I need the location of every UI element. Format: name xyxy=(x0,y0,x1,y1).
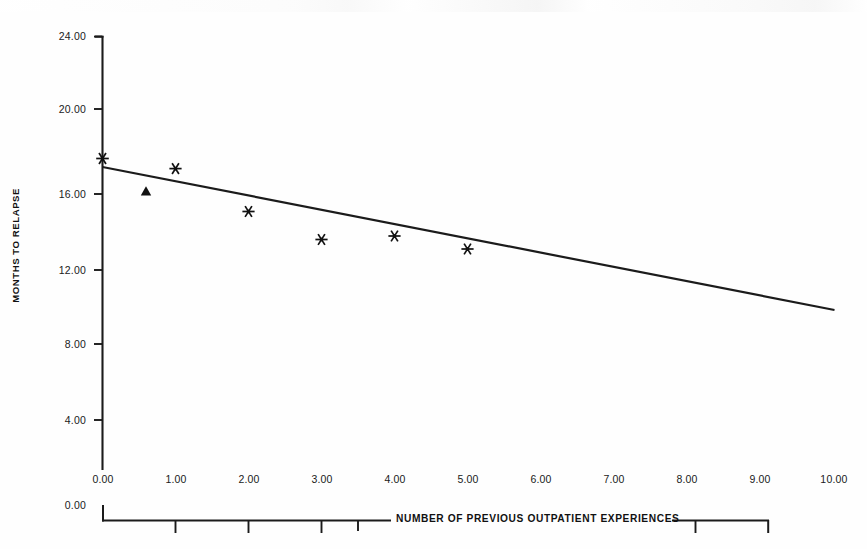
y-axis-title: MONTHS TO RELAPSE xyxy=(10,188,21,303)
data-point-marker xyxy=(315,234,327,245)
x-axis-title: NUMBER OF PREVIOUS OUTPATIENT EXPERIENCE… xyxy=(396,513,679,524)
data-point-marker xyxy=(169,163,181,174)
x-tick-label: 10.00 xyxy=(820,473,847,485)
y-tick-label: 4.00 xyxy=(32,414,86,426)
x-tick-label: 6.00 xyxy=(530,473,551,485)
data-point-marker-triangle xyxy=(141,186,151,195)
y-tick-label: 8.00 xyxy=(32,338,86,350)
regression-line xyxy=(103,167,835,310)
scatter-plot-canvas xyxy=(0,0,867,549)
data-point-marker xyxy=(461,244,473,255)
x-tick-label: 8.00 xyxy=(676,473,697,485)
x-tick-label: 1.00 xyxy=(165,473,186,485)
y-axis-ticks xyxy=(94,37,102,420)
data-point-marker xyxy=(242,206,254,217)
x-tick-label: 0.00 xyxy=(92,473,113,485)
y-tick-label: 12.00 xyxy=(32,264,86,276)
x-tick-label: 3.00 xyxy=(311,473,332,485)
x-tick-label: 2.00 xyxy=(238,473,259,485)
y-tick-label: 24.00 xyxy=(32,30,86,42)
data-point-marker xyxy=(388,231,400,242)
y-axis-spine xyxy=(95,36,104,470)
x-tick-label: 4.00 xyxy=(384,473,405,485)
x-tick-label: 5.00 xyxy=(457,473,478,485)
y-tick-label: 16.00 xyxy=(32,188,86,200)
x-tick-label: 7.00 xyxy=(603,473,624,485)
y-tick-label: 20.00 xyxy=(32,103,86,115)
x-axis-origin-label: 0.00 xyxy=(32,499,86,511)
chart-page: 24.00 20.00 16.00 12.00 8.00 4.00 MONTHS… xyxy=(0,0,867,549)
x-tick-label: 9.00 xyxy=(749,473,770,485)
